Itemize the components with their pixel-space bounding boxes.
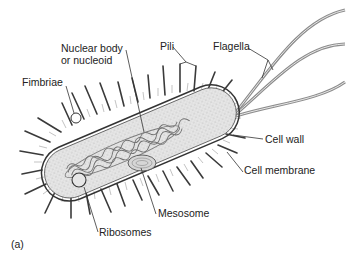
label-pili: Pili — [160, 40, 174, 52]
label-cell-wall: Cell wall — [265, 133, 304, 145]
label-mesosome: Mesosome — [158, 207, 209, 219]
label-fimbriae: Fimbriae — [22, 76, 63, 88]
label-nucleoid-line2: or nucleoid — [61, 54, 112, 66]
cell-body — [33, 76, 248, 210]
label-cell-membrane: Cell membrane — [244, 164, 315, 176]
label-flagella: Flagella — [213, 40, 250, 52]
label-nucleoid-line1: Nuclear body — [61, 42, 123, 54]
label-ribosomes: Ribosomes — [99, 226, 152, 238]
ribosome-granule — [72, 173, 86, 187]
fimbriae-granule — [71, 113, 81, 123]
flagella — [236, 10, 345, 116]
mesosome — [128, 155, 156, 171]
panel-label: (a) — [11, 238, 24, 250]
bacterial-cell-diagram: Nuclear body or nucleoid Pili Flagella F… — [0, 0, 363, 262]
